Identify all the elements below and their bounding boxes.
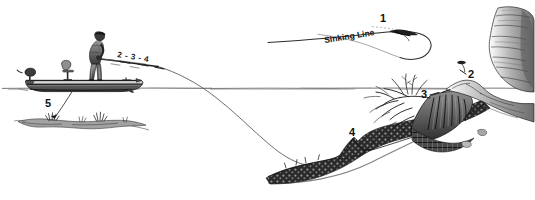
rocky-cliff [489,7,534,92]
outboard-motor [17,68,36,83]
illustration-artwork [0,0,535,200]
rock-nub [457,61,466,72]
boat [17,60,143,92]
fishing-illustration: 1 Sinking Line 2 - 3 - 4 2 3 4 5 [0,0,535,200]
callout-label-5: 5 [45,98,51,109]
sinking-line-underwater [158,67,368,165]
callout-label-2: 2 [468,69,474,80]
callout-label-4: 4 [349,127,355,138]
anchor-line [51,92,72,119]
angler [89,32,105,80]
bottom-structure-left [14,112,149,130]
boat-seat [62,60,74,80]
callout-label-3: 3 [421,89,427,100]
fly-icon [389,30,418,42]
callout-label-1: 1 [380,13,386,24]
